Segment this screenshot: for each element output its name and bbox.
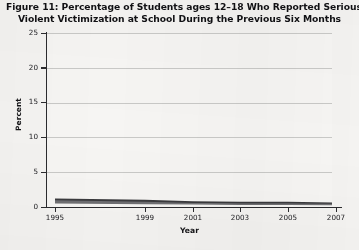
y-tick-label-0: 0: [16, 203, 38, 211]
x-tick-mark-2001: [193, 207, 194, 212]
y-tick-mark-20: [41, 67, 46, 68]
x-tick-mark-2005: [288, 207, 289, 212]
y-tick-mark-10: [41, 137, 46, 138]
x-tick-mark-2003: [240, 207, 241, 212]
x-tick-label-1999: 1999: [128, 214, 162, 222]
series-svg: [47, 33, 332, 207]
page-title: Figure 11: Percentage of Students ages 1…: [6, 1, 353, 24]
y-tick-mark-15: [41, 102, 46, 103]
data-series-layer: [47, 33, 332, 207]
title-line-1: Figure 11: Percentage of Students ages 1…: [6, 1, 353, 13]
x-tick-label-2001: 2001: [176, 214, 210, 222]
y-tick-mark-25: [41, 33, 46, 34]
x-axis-title: Year: [47, 226, 332, 235]
x-tick-label-2003: 2003: [223, 214, 257, 222]
x-tick-label-2007: 2007: [319, 214, 353, 222]
y-tick-mark-0: [41, 207, 46, 208]
y-tick-label-5: 5: [16, 168, 38, 176]
x-tick-label-1995: 1995: [38, 214, 72, 222]
y-tick-label-20: 20: [16, 64, 38, 72]
x-tick-mark-1995: [55, 207, 56, 212]
x-tick-label-2005: 2005: [271, 214, 305, 222]
y-tick-mark-5: [41, 172, 46, 173]
title-line-2: Violent Victimization at School During t…: [6, 13, 353, 25]
figure-11-chart: Figure 11: Percentage of Students ages 1…: [0, 0, 359, 250]
y-tick-label-25: 25: [16, 29, 38, 37]
y-axis-title: Percent: [14, 85, 23, 145]
x-tick-mark-2007: [336, 207, 337, 212]
x-tick-mark-1999: [145, 207, 146, 212]
